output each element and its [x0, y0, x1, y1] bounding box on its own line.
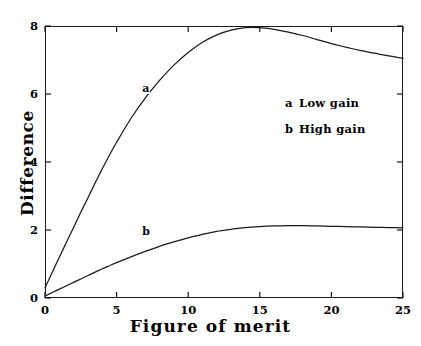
legend-label-low-gain: Low gain — [299, 96, 359, 110]
legend-label-high-gain: High gain — [299, 122, 366, 136]
legend-item-low-gain: a Low gain — [285, 96, 366, 110]
legend-item-high-gain: b High gain — [285, 122, 366, 136]
chart-figure: 02468 0510152025 ab Figure of merit Diff… — [0, 0, 421, 346]
x-tick-label: 5 — [113, 303, 121, 317]
curve-paths — [45, 27, 403, 296]
y-tick-label: 8 — [22, 19, 38, 33]
curve-label-b: b — [141, 226, 151, 237]
curve-b — [45, 226, 403, 296]
legend-key-b: b — [285, 122, 299, 136]
y-tick-label: 0 — [22, 291, 38, 305]
x-tick-label: 15 — [252, 303, 268, 317]
legend-key-a: a — [285, 96, 299, 110]
x-tick-label: 25 — [395, 303, 411, 317]
curve-a — [45, 27, 403, 287]
chart-canvas — [0, 0, 421, 346]
x-axis-title: Figure of merit — [0, 316, 421, 336]
x-tick-label: 20 — [323, 303, 339, 317]
x-tick-label: 10 — [180, 303, 196, 317]
curve-label-a: a — [141, 83, 150, 94]
chart-legend: a Low gain b High gain — [285, 96, 366, 148]
y-axis-title: Difference — [17, 93, 37, 233]
tick-marks — [45, 26, 403, 298]
x-tick-label: 0 — [41, 303, 49, 317]
